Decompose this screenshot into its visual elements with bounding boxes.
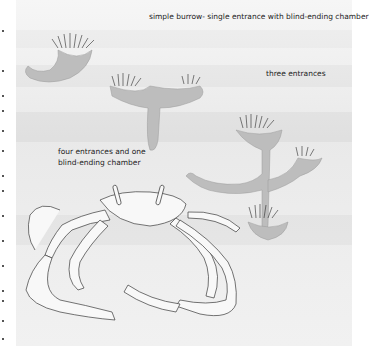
- label-three-entrances: three entrances: [266, 69, 326, 79]
- label-four-entrances-line2: blind-ending chamber: [58, 158, 141, 168]
- crab-icon: [26, 185, 240, 320]
- three-entrance-burrow: [110, 86, 203, 150]
- four-entrance-burrow: [186, 130, 322, 240]
- simple-burrow: [25, 50, 92, 82]
- burrow-entrance-tufts: [52, 33, 314, 218]
- label-four-entrances-line1: four entrances and one: [58, 147, 146, 157]
- label-simple-burrow: simple burrow- single entrance with blin…: [149, 12, 369, 22]
